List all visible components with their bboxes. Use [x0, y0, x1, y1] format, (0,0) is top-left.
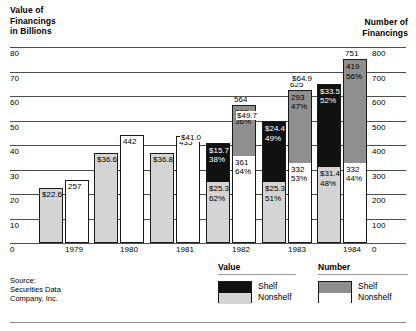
number-nonshelf-label-1984: 332 44% [346, 165, 362, 184]
legend-number-shelf-swatch [319, 282, 351, 293]
y-tick-right-400: 400 [372, 147, 406, 156]
value-nonshelf-label-1984: $31.4 48% [320, 169, 340, 188]
x-axis: 197919801981198219831984 [10, 245, 406, 259]
y-tick-left-70: 70 [10, 74, 19, 83]
number-nonshelf-label-1982: 361 64% [235, 158, 251, 177]
legend-number-rule [318, 274, 408, 275]
legend-value-rule [218, 274, 296, 275]
legend-number-swatch [318, 281, 352, 303]
legend-value-rows: Shelf Nonshelf [218, 281, 296, 305]
value-nonshelf-segment-1981 [151, 154, 173, 243]
number-bar-1982: 203 36%361 64% [232, 105, 256, 243]
value-bar-1983: $24.4 49%$25.3 51% [262, 121, 286, 243]
legend-value-nonshelf-swatch [219, 293, 251, 304]
value-total-label-1980: $36.6 [96, 155, 118, 164]
number-shelf-label-1983: 293 47% [291, 93, 307, 112]
y-tick-left-10: 10 [10, 221, 19, 230]
number-bar-1984: 419 56%332 44% [343, 59, 367, 243]
gridline-0 [10, 243, 406, 244]
legend-number-rows: Shelf Nonshelf [318, 281, 408, 305]
value-total-label-1984: $64.9 [291, 74, 313, 83]
number-bar-1980 [120, 135, 144, 243]
y-tick-right-600: 600 [372, 98, 406, 107]
legend-number-nonshelf-label: Nonshelf [358, 292, 392, 303]
gridline-80 [10, 47, 406, 48]
y-tick-left-30: 30 [10, 172, 19, 181]
value-bar-1980 [94, 153, 118, 243]
tickmark-right-0 [366, 243, 370, 244]
y-tick-left-60: 60 [10, 98, 19, 107]
source-note: Source: Securities Data Company, Inc. [10, 276, 61, 303]
number-shelf-label-1984: 419 56% [346, 62, 362, 81]
left-axis-title: Value of Financings in Billions [10, 5, 56, 37]
legend-group-number: Number Shelf Nonshelf [318, 262, 408, 305]
value-nonshelf-segment-1980 [95, 154, 117, 243]
chart-legend: Value Shelf Nonshelf Number Shelf No [218, 262, 408, 318]
value-total-label-1981: $36.8 [152, 155, 174, 164]
y-tick-right-200: 200 [372, 196, 406, 205]
number-nonshelf-label-1983: 332 53% [291, 165, 307, 184]
legend-number-nonshelf-swatch [319, 293, 351, 304]
legend-value-heading: Value [218, 262, 296, 274]
legend-value-shelf-label: Shelf [258, 281, 277, 292]
legend-value-shelf-swatch [219, 282, 251, 293]
legend-value-swatch [218, 281, 252, 303]
number-bar-1981 [176, 136, 200, 243]
number-bar-1983: 293 47%332 53% [288, 90, 312, 243]
chart-figure: Value of Financings in Billions Number o… [0, 0, 416, 331]
value-total-label-1979: $22.6 [41, 190, 63, 199]
y-tick-right-100: 100 [372, 221, 406, 230]
x-tick-1984: 1984 [319, 245, 385, 254]
number-total-label-1982: 564 [233, 95, 248, 104]
value-total-label-1983: $49.7 [236, 111, 258, 120]
number-total-label-1984: 751 [344, 49, 359, 58]
value-bar-1981 [150, 153, 174, 243]
legend-number-heading: Number [318, 262, 408, 274]
legend-value-nonshelf-label: Nonshelf [258, 292, 292, 303]
legend-group-value: Value Shelf Nonshelf [218, 262, 296, 305]
value-shelf-label-1982: $15.7 38% [209, 146, 229, 165]
bottom-divider [10, 322, 406, 323]
number-nonshelf-segment-1981 [177, 137, 199, 243]
value-nonshelf-label-1982: $25.3 62% [209, 184, 229, 203]
right-axis-title: Number of Financings [362, 17, 408, 38]
tickmark-right-800 [366, 47, 370, 48]
legend-number-shelf-label: Shelf [358, 281, 377, 292]
y-tick-right-800: 800 [372, 49, 406, 58]
y-tick-left-50: 50 [10, 123, 19, 132]
value-bar-1982: $15.7 38%$25.3 62% [206, 143, 230, 243]
y-tick-left-80: 80 [10, 49, 19, 58]
plot-area: 0102030405060708001002003004005006007008… [10, 47, 406, 243]
y-tick-right-300: 300 [372, 172, 406, 181]
number-total-label-1979: 257 [67, 182, 82, 191]
number-total-label-1980: 442 [122, 137, 137, 146]
y-tick-left-20: 20 [10, 196, 19, 205]
value-shelf-label-1984: $33.5 52% [320, 87, 340, 106]
y-tick-left-40: 40 [10, 147, 19, 156]
number-nonshelf-segment-1980 [121, 136, 143, 243]
value-shelf-label-1983: $24.4 49% [265, 124, 285, 143]
value-total-label-1982: $41.0 [180, 133, 202, 142]
y-tick-right-500: 500 [372, 123, 406, 132]
value-bar-1984: $33.5 52%$31.4 48% [317, 84, 341, 243]
y-tick-right-700: 700 [372, 74, 406, 83]
value-nonshelf-label-1983: $25.3 51% [265, 184, 285, 203]
